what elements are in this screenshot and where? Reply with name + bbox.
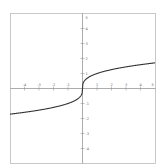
x-tick-label: 3 — [125, 83, 127, 87]
y-tick-label: -2 — [86, 117, 90, 121]
y-tick-label: -1 — [86, 102, 90, 106]
y-tick-label: 1 — [86, 72, 88, 76]
x-end-label: 5 — [151, 83, 153, 87]
x-tick-label: 1 — [96, 83, 98, 87]
y-end-label: 5 — [86, 16, 88, 20]
y-tick-label: -3 — [86, 132, 90, 136]
x-tick-label: -1 — [66, 83, 70, 87]
cube-root-plot: -4-3-2-112345-4-3-2-112345 — [0, 0, 166, 168]
x-tick-label: 2 — [110, 83, 112, 87]
x-tick-label: -3 — [37, 83, 41, 87]
x-tick-label: -2 — [52, 83, 56, 87]
y-tick-label: 3 — [86, 42, 88, 46]
y-tick-label: 2 — [86, 57, 88, 61]
